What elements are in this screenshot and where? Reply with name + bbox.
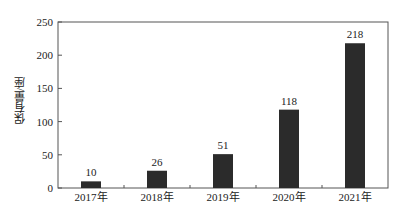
data-label: 218 [347,28,364,40]
y-tick-label: 200 [37,49,54,61]
y-tick-label: 100 [37,116,54,128]
x-tick-label: 2017年 [75,190,108,203]
bar [81,181,101,188]
y-tick-label: 150 [37,82,54,94]
y-tick-label: 0 [48,182,54,194]
x-tick-label: 2021年 [339,190,372,203]
y-tick-label: 250 [37,16,54,28]
bar [147,171,167,188]
data-label: 118 [281,95,298,107]
x-tick-label: 2018年 [141,190,174,203]
x-tick-label: 2020年 [273,190,306,203]
data-label: 51 [218,139,229,151]
x-tick-label: 2019年 [207,190,240,203]
data-label: 26 [152,156,164,168]
bar [213,154,233,188]
bar [345,43,365,188]
y-tick-label: 50 [42,149,54,161]
bar [279,110,299,188]
bar-chart: 050100150200250102017年262018年512019年1182… [0,0,402,219]
data-label: 10 [86,166,98,178]
